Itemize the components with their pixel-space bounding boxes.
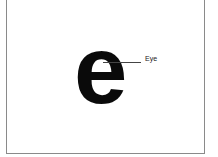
eye-leader-line [103,62,141,63]
letter-e-glyph: e [74,22,127,118]
eye-label: Eye [145,55,157,62]
